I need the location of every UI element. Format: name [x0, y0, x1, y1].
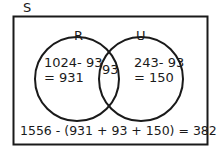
set-r-only-expression: 1024- 93 [44, 56, 102, 70]
set-u-only-result: = 150 [134, 71, 174, 85]
universe-label: S [23, 1, 31, 15]
set-r-only-result: = 931 [44, 71, 84, 85]
outside-formula: 1556 - (931 + 93 + 150) = 382 [20, 124, 217, 138]
set-u-only-expression: 243- 93 [134, 56, 184, 70]
set-r-label: R [74, 29, 83, 43]
intersection-value: 93 [102, 63, 119, 77]
set-u-label: U [136, 29, 146, 43]
